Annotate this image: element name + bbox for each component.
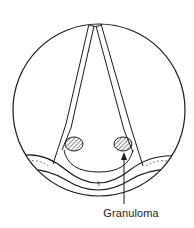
bottom-band-upper <box>12 155 190 183</box>
granuloma-label: Granuloma <box>96 207 166 219</box>
band-texture-left <box>24 161 48 166</box>
inner-u-curve <box>64 150 133 172</box>
diagram-canvas: § <box>0 0 194 228</box>
right-mass <box>114 137 132 151</box>
band-mark: § <box>97 180 100 186</box>
arrow-icon <box>121 152 127 204</box>
left-mass <box>65 137 83 151</box>
